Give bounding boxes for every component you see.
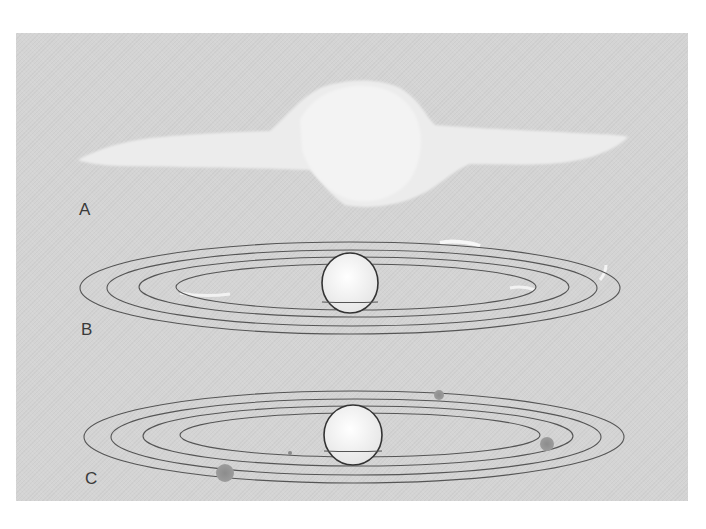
- panel-c-central-sphere: [324, 405, 382, 465]
- panel-label-b: B: [81, 320, 92, 340]
- panel-c-planets: [216, 390, 554, 482]
- solar-system-formation-diagram: [0, 0, 706, 529]
- nebula-core: [300, 86, 421, 202]
- planet-large: [216, 464, 234, 482]
- panel-a-nebula: [78, 81, 628, 207]
- planet-top: [434, 390, 444, 400]
- planet-tiny: [288, 451, 292, 455]
- panel-b-central-sphere: [322, 253, 378, 313]
- panel-label-c: C: [85, 469, 97, 489]
- planet-right: [540, 437, 554, 451]
- panel-label-a: A: [79, 200, 90, 220]
